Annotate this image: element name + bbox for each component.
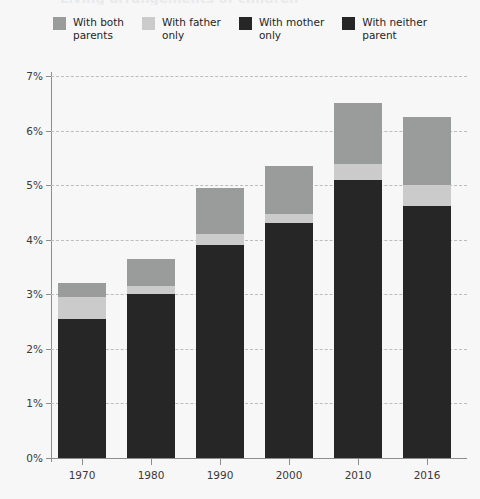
y-tick-mark — [46, 76, 51, 77]
x-tick-mark-1980 — [151, 458, 152, 465]
plot-area: 0%1%2%3%4%5%6%7%197019801990200020102016 — [51, 76, 467, 458]
y-axis-label-0%: 0% — [26, 452, 43, 464]
bar-group-2010[interactable]: 2010 — [334, 76, 382, 458]
y-tick-mark — [46, 185, 51, 186]
x-tick-mark-2016 — [427, 458, 428, 465]
bar-group-2000[interactable]: 2000 — [265, 76, 313, 458]
bar-segment-1980-with-father-only[interactable] — [127, 286, 175, 294]
y-tick-mark — [46, 240, 51, 241]
bar-segment-1980-with-both-parents[interactable] — [127, 259, 175, 286]
x-axis-label-2016: 2016 — [414, 469, 441, 481]
bar-segment-2010-with-mother-only[interactable] — [334, 180, 382, 458]
bar-group-1980[interactable]: 1980 — [127, 76, 175, 458]
y-tick-mark — [46, 131, 51, 132]
y-axis-label-3%: 3% — [26, 288, 43, 300]
x-tick-mark-2000 — [289, 458, 290, 465]
bar-segment-2010-with-both-parents[interactable] — [334, 103, 382, 164]
bar-segment-1990-with-both-parents[interactable] — [196, 188, 244, 234]
y-axis-label-7%: 7% — [26, 70, 43, 82]
bar-segment-1970-with-father-only[interactable] — [58, 297, 106, 319]
x-axis-label-1990: 1990 — [207, 469, 234, 481]
gridline-0% — [51, 458, 467, 459]
x-axis-label-2010: 2010 — [345, 469, 372, 481]
x-axis-label-1980: 1980 — [138, 469, 165, 481]
x-tick-mark-1990 — [220, 458, 221, 465]
x-axis-label-1970: 1970 — [69, 469, 96, 481]
bar-group-1970[interactable]: 1970 — [58, 76, 106, 458]
bar-segment-2010-with-father-only[interactable] — [334, 164, 382, 179]
bar-segment-2000-with-father-only[interactable] — [265, 214, 313, 224]
bar-segment-1990-with-mother-only[interactable] — [196, 245, 244, 458]
bar-segment-1970-with-mother-only[interactable] — [58, 319, 106, 458]
y-tick-mark — [46, 458, 51, 459]
y-axis-label-4%: 4% — [26, 234, 43, 246]
y-tick-mark — [46, 349, 51, 350]
bar-segment-1990-with-father-only[interactable] — [196, 234, 244, 245]
bar-segment-2016-with-both-parents[interactable] — [403, 117, 451, 185]
bar-segment-2000-with-both-parents[interactable] — [265, 166, 313, 213]
stacked-bar-chart: 0%1%2%3%4%5%6%7%197019801990200020102016 — [0, 0, 480, 499]
bar-segment-1980-with-mother-only[interactable] — [127, 294, 175, 458]
y-axis-label-1%: 1% — [26, 397, 43, 409]
bar-group-1990[interactable]: 1990 — [196, 76, 244, 458]
y-tick-mark — [46, 294, 51, 295]
y-tick-mark — [46, 403, 51, 404]
bar-segment-2016-with-father-only[interactable] — [403, 185, 451, 206]
bar-segment-1970-with-both-parents[interactable] — [58, 283, 106, 297]
bar-group-2016[interactable]: 2016 — [403, 76, 451, 458]
y-axis-label-2%: 2% — [26, 343, 43, 355]
y-axis-label-6%: 6% — [26, 125, 43, 137]
x-tick-mark-1970 — [82, 458, 83, 465]
bar-segment-2016-with-mother-only[interactable] — [403, 206, 451, 458]
x-axis-label-2000: 2000 — [276, 469, 303, 481]
x-tick-mark-2010 — [358, 458, 359, 465]
y-axis-label-5%: 5% — [26, 179, 43, 191]
bar-segment-2000-with-mother-only[interactable] — [265, 223, 313, 458]
